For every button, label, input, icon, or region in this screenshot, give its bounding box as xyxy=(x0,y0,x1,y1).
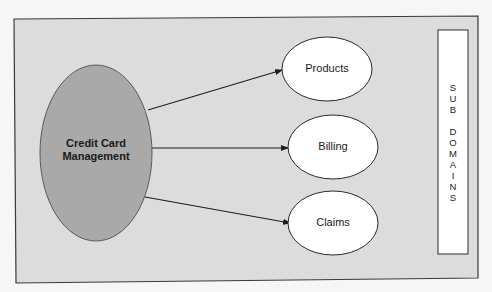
core-domain-label: Credit Card Management xyxy=(40,137,152,163)
core-domain-label-line2: Management xyxy=(40,150,152,163)
subdomain-products-label: Products xyxy=(282,62,372,75)
sub-domains-panel-text-container: S U B D O M A I N S xyxy=(438,30,468,254)
subdomain-claims-label: Claims xyxy=(288,216,378,229)
core-domain-label-line1: Credit Card xyxy=(40,137,152,150)
sub-domains-vertical-label: S U B D O M A I N S xyxy=(449,82,457,203)
subdomain-billing-label: Billing xyxy=(288,140,378,153)
